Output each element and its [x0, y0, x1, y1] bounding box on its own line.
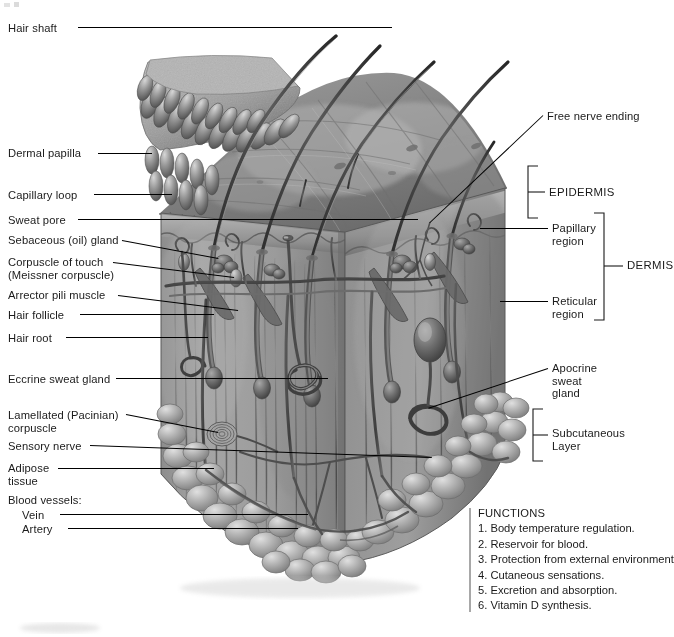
leader-line-adipose-tissue: [58, 468, 214, 469]
functions-item: 2. Reservoir for blood.: [478, 537, 674, 552]
label-reticular-region: Reticularregion: [552, 295, 597, 320]
label-epidermis: EPIDERMIS: [549, 186, 615, 199]
leader-line-hair-follicle: [80, 314, 214, 315]
functions-item: 3. Protection from external environment.: [478, 552, 674, 567]
label-free-nerve-ending: Free nerve ending: [547, 110, 640, 123]
leader-line-artery: [68, 528, 298, 529]
label-artery: Artery: [22, 523, 53, 536]
functions-item: 4. Cutaneous sensations.: [478, 568, 674, 583]
skin-structure-figure: Hair shaft Dermal papilla Capillary loop…: [0, 0, 674, 637]
label-hair-root: Hair root: [8, 332, 52, 345]
label-arrector-pili-muscle: Arrector pili muscle: [8, 289, 105, 302]
leader-line-apocrine-gland: [428, 368, 548, 409]
label-dermal-papilla: Dermal papilla: [8, 147, 81, 160]
functions-item: 1. Body temperature regulation.: [478, 521, 674, 536]
label-corpuscle-of-touch: Corpuscle of touch(Meissner corpuscle): [8, 256, 114, 281]
leader-line-arrector-pili: [118, 295, 238, 311]
leader-line-sensory-nerve: [90, 445, 432, 458]
leader-line-capillary-loop: [94, 194, 172, 195]
label-hair-follicle: Hair follicle: [8, 309, 64, 322]
leader-line-reticular-region: [500, 301, 548, 302]
label-sebaceous-gland: Sebaceous (oil) gland: [8, 234, 119, 247]
functions-accent-bar: [469, 508, 471, 612]
functions-heading: FUNCTIONS: [478, 506, 674, 521]
leader-line-hair-root: [66, 337, 208, 338]
label-blood-vessels: Blood vessels:: [8, 494, 82, 507]
label-pacinian-corpuscle: Lamellated (Pacinian)corpuscle: [8, 409, 119, 434]
leader-line-free-nerve-ending: [430, 115, 544, 223]
leader-line-hair-shaft: [78, 27, 392, 28]
label-dermis: DERMIS: [627, 259, 673, 272]
label-hair-shaft: Hair shaft: [8, 22, 57, 35]
leader-line-sebaceous-gland: [122, 240, 218, 259]
leader-line-corpuscle-touch: [113, 262, 234, 278]
leader-line-papillary-region: [480, 228, 548, 229]
label-apocrine-sweat-gland: Apocrinesweatgland: [552, 362, 597, 400]
label-subcutaneous-layer: SubcutaneousLayer: [552, 427, 625, 452]
leader-line-dermal-papilla: [98, 153, 152, 154]
leader-line-sweat-pore: [78, 219, 418, 220]
leader-line-eccrine-gland: [116, 378, 328, 379]
label-sensory-nerve: Sensory nerve: [8, 440, 82, 453]
label-sweat-pore: Sweat pore: [8, 214, 66, 227]
functions-item: 6. Vitamin D synthesis.: [478, 598, 674, 613]
functions-item: 5. Excretion and absorption.: [478, 583, 674, 598]
label-papillary-region: Papillaryregion: [552, 222, 596, 247]
label-capillary-loop: Capillary loop: [8, 189, 77, 202]
leader-line-vein: [60, 514, 308, 515]
label-vein: Vein: [22, 509, 44, 522]
functions-box: FUNCTIONS 1. Body temperature regulation…: [478, 506, 674, 614]
leader-line-pacinian: [126, 414, 218, 433]
label-eccrine-sweat-gland: Eccrine sweat gland: [8, 373, 110, 386]
label-adipose-tissue: Adiposetissue: [8, 462, 49, 487]
